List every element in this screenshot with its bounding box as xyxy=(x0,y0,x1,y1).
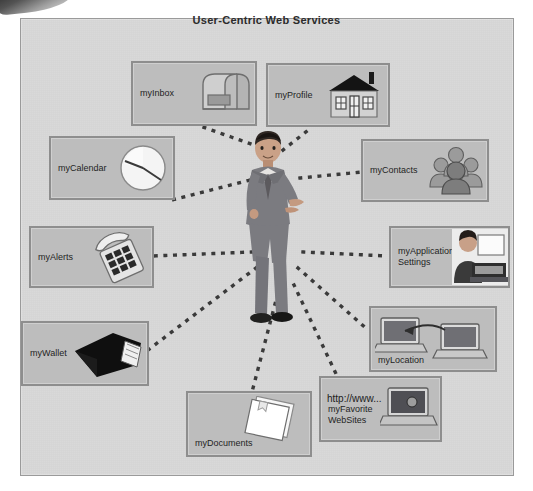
node-mycontacts[interactable]: myContacts xyxy=(361,139,489,202)
node-label: myCalendar xyxy=(51,163,107,174)
wallet-icon xyxy=(71,331,145,381)
node-label: myWallet xyxy=(23,348,67,359)
node-label: myApplication Settings xyxy=(391,246,454,268)
node-label: myAlerts xyxy=(31,252,73,263)
user-figure xyxy=(232,128,318,340)
node-label: myProfile xyxy=(268,90,313,101)
node-mywallet[interactable]: myWallet xyxy=(21,321,149,386)
documents-icon xyxy=(242,396,302,446)
node-label: myInbox xyxy=(133,88,174,99)
node-myalerts[interactable]: myAlerts xyxy=(29,226,154,288)
http-text: http://www... xyxy=(327,393,381,404)
node-label: myContacts xyxy=(363,165,418,176)
telephone-icon xyxy=(93,230,149,284)
laptop-browser-icon xyxy=(380,386,438,434)
node-myapplication-settings[interactable]: myApplication Settings xyxy=(389,226,510,288)
node-myprofile[interactable]: myProfile xyxy=(266,63,390,127)
node-myinbox[interactable]: myInbox xyxy=(131,61,257,126)
node-mylocation[interactable]: myLocation xyxy=(369,306,497,372)
house-icon xyxy=(325,69,383,121)
people-group-icon xyxy=(427,145,483,195)
page-title: User-Centric Web Services xyxy=(0,14,533,26)
node-mydocuments[interactable]: myDocuments xyxy=(186,391,312,457)
mailbox-icon xyxy=(189,71,251,117)
person-at-computer-icon xyxy=(452,229,508,285)
node-mycalendar[interactable]: myCalendar xyxy=(49,136,175,200)
node-myfavorite-websites[interactable]: http://www... myFavorite WebSites xyxy=(319,376,442,442)
node-label: myFavorite WebSites xyxy=(327,404,381,426)
diagram-canvas: User-Centric Web Services xyxy=(0,0,533,491)
clock-icon xyxy=(119,144,167,192)
two-laptops-icon xyxy=(375,312,491,366)
